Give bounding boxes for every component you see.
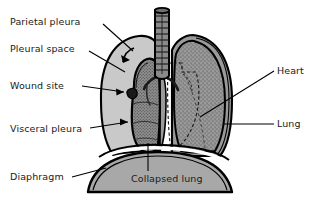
wound-site-marker: [127, 88, 137, 98]
trachea-top-cap: [155, 8, 169, 13]
diaphragm: [88, 145, 232, 192]
label-heart: Heart: [277, 66, 304, 76]
label-visceral-pleura: Visceral pleura: [10, 124, 82, 134]
label-collapsed-lung: Collapsed lung: [131, 174, 203, 184]
label-lung: Lung: [277, 119, 301, 129]
label-wound-site: Wound site: [10, 81, 64, 91]
diaphragm-dome: [88, 152, 232, 192]
label-diaphragm: Diaphragm: [10, 172, 64, 182]
mediastinum: [160, 70, 166, 151]
trachea: [155, 8, 169, 79]
label-parietal-pleura: Parietal pleura: [10, 17, 80, 27]
label-pleural-space: Pleural space: [10, 44, 75, 54]
wound-opening: [127, 88, 137, 98]
figure-canvas: Parietal pleura Pleural space Wound site…: [0, 0, 312, 197]
anatomy-illustration: [0, 0, 312, 197]
